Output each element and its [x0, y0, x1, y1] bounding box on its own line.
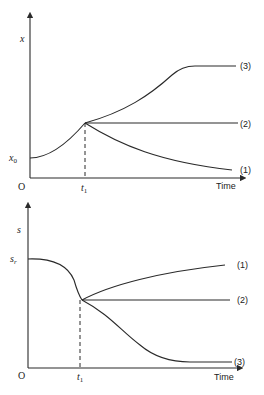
- top-curve-1: [85, 123, 232, 170]
- top-panel: x x0 O t1 Time (3) (2) (1): [8, 15, 251, 195]
- diagram-canvas: x x0 O t1 Time (3) (2) (1) s sr O t1 Tim…: [0, 0, 264, 395]
- bottom-curve-3-label: (3): [234, 357, 245, 367]
- bottom-curve-1-label: (1): [237, 260, 248, 270]
- bottom-time-label: Time: [214, 372, 234, 382]
- top-time-label: Time: [216, 181, 236, 191]
- top-t1-label: t1: [81, 182, 88, 195]
- bottom-initial-label: sr: [10, 253, 17, 266]
- top-initial-curve: [30, 123, 85, 158]
- bottom-initial-curve: [28, 259, 82, 300]
- bottom-t1-label: t1: [77, 371, 84, 384]
- bottom-panel: s sr O t1 Time (1) (2) (3): [10, 205, 248, 384]
- bottom-curve-1: [82, 265, 225, 300]
- bottom-curve-3: [82, 300, 232, 362]
- bottom-origin-label: O: [18, 370, 25, 381]
- bottom-curve-2-label: (2): [237, 295, 248, 305]
- top-curve-1-label: (1): [240, 165, 251, 175]
- bottom-y-label: s: [17, 224, 21, 235]
- top-curve-2-label: (2): [240, 119, 251, 129]
- top-initial-label: x0: [8, 152, 17, 165]
- top-curve-3-label: (3): [240, 61, 251, 71]
- top-origin-label: O: [18, 181, 25, 192]
- top-y-label: x: [19, 33, 25, 44]
- top-curve-3: [85, 66, 236, 123]
